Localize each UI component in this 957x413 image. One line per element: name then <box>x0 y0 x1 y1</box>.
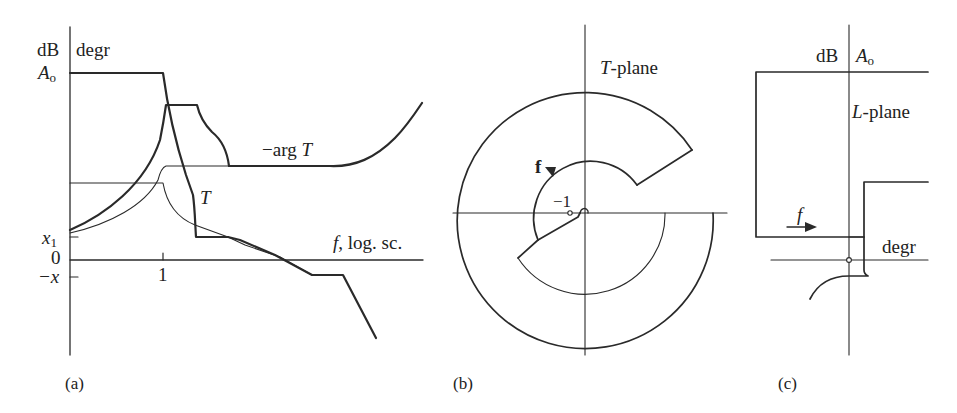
critical-point <box>847 258 852 263</box>
gain-curve-T <box>70 73 376 338</box>
tick-label-zero: 0 <box>51 248 61 267</box>
panel-a-caption: (a) <box>65 375 84 392</box>
diagram-canvas <box>0 0 957 413</box>
panel-a-plot <box>70 27 423 355</box>
x-tick-label-1: 1 <box>158 265 168 284</box>
t-plane-label: T-plane <box>600 58 658 77</box>
gain-curve-label: T <box>200 188 211 207</box>
panel-c-plot <box>756 25 928 355</box>
panel-c-direction-f: f <box>797 205 802 224</box>
panel-a-unit-degr: degr <box>76 40 110 59</box>
tick-label-A0: Ao <box>38 63 56 84</box>
phase-curve-arg-T <box>70 103 422 230</box>
panel-a-unit-db: dB <box>37 40 59 59</box>
minus-one-point <box>568 211 572 215</box>
panel-c-unit-db: dB <box>816 46 838 65</box>
x-axis-label: f, log. sc. <box>333 233 402 252</box>
inner-thin-arc <box>518 213 665 294</box>
panel-b-caption: (b) <box>453 375 473 392</box>
direction-arrow-f <box>545 167 556 177</box>
panel-c-caption: (c) <box>778 375 797 392</box>
panel-c-degr-label: degr <box>882 237 916 256</box>
tick-label-minus-x: −x <box>38 267 59 286</box>
panel-c-A0-label: Ao <box>856 46 874 67</box>
minus-one-label: −1 <box>553 193 571 210</box>
phase-curve-label: −arg T <box>262 140 312 159</box>
thin-gain-curve <box>70 183 312 275</box>
panel-b-plot <box>453 25 727 355</box>
direction-label-f: f <box>535 157 541 176</box>
tick-label-x1: x1 <box>42 228 57 249</box>
l-plane-contour <box>756 72 928 237</box>
l-plane-label: L-plane <box>852 102 910 121</box>
